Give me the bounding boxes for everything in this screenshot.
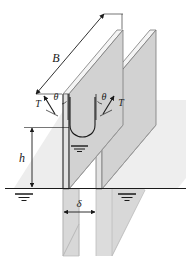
dimension-delta-label: δ [76, 197, 82, 209]
dimension-B-label: B [52, 51, 60, 65]
tension-left-label: T [35, 98, 42, 109]
submerged-plates-group [63, 189, 145, 256]
water-level-symbol-left [15, 194, 33, 201]
tension-left-tangent-guide [46, 110, 58, 116]
capillary-rise-figure: B h δ T θ θ T [0, 0, 186, 272]
angle-left-label: θ [54, 91, 59, 102]
submerged-plate-right [96, 189, 112, 256]
angle-right-label: θ [102, 91, 107, 102]
dimension-h-label: h [19, 151, 25, 165]
figure-canvas: B h δ T θ θ T [0, 0, 186, 272]
